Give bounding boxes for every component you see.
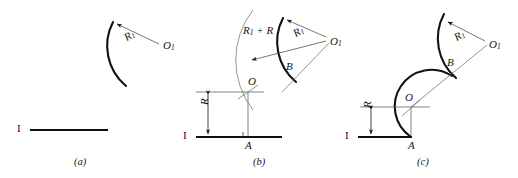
fillet-arc-c	[395, 70, 452, 137]
dimension-r-label-c: R	[362, 101, 373, 108]
line-label-a: I	[17, 123, 21, 134]
fillet-center-label-c: O	[405, 92, 413, 103]
tangent-point-b-label-b: B	[286, 61, 293, 72]
engineering-drawing-figure: R1 O1 I (a) R1 O1 R1 + R O B R A I (b) R…	[0, 0, 518, 178]
panel-a-geometry	[30, 22, 159, 130]
caption-a: (a)	[74, 156, 86, 167]
caption-b: (b)	[253, 156, 265, 167]
sum-radius-label-b: R1 + R	[243, 25, 273, 37]
panel-c-geometry	[358, 14, 487, 137]
o1-through-b-to-o-line-c	[411, 45, 487, 107]
sum-radius-leader-b	[252, 41, 326, 60]
center-label-c: O1	[489, 39, 501, 51]
tangent-point-a-label-c: A	[408, 140, 415, 151]
tangent-point-b-label-c: B	[447, 57, 454, 68]
center-label-b: O1	[330, 36, 342, 48]
given-arc-c	[438, 14, 456, 78]
line-label-c: I	[345, 130, 349, 141]
center-label-a: O1	[163, 40, 175, 52]
line-label-b: I	[183, 130, 187, 141]
dimension-r-label-b: R	[199, 98, 210, 105]
caption-c: (c)	[417, 156, 429, 167]
tangent-point-a-label-b: A	[245, 140, 252, 151]
fillet-center-label-b: O	[248, 76, 256, 87]
